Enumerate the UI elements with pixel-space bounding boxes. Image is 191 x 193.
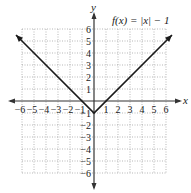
x-tick-label: 6 <box>164 104 169 115</box>
y-axis-label: y <box>90 1 96 13</box>
y-tick-label: −3 <box>80 132 91 143</box>
x-tick-label: −2 <box>63 104 74 115</box>
y-tick-label: 1 <box>86 84 91 95</box>
y-tick-label: −6 <box>80 168 91 179</box>
x-axis-label: x <box>182 94 188 106</box>
y-tick-label: 2 <box>86 72 91 83</box>
y-axis-arrow-down-icon <box>92 183 97 190</box>
y-tick-label: 4 <box>86 48 91 59</box>
x-tick-label: 2 <box>116 104 121 115</box>
y-tick-label: −4 <box>80 144 91 155</box>
x-tick-label: −5 <box>27 104 38 115</box>
function-label: f(x) = |x| − 1 <box>112 14 170 27</box>
y-tick-label: −2 <box>80 120 91 131</box>
y-axis-arrow-up-icon <box>92 12 97 19</box>
x-axis-arrow-left-icon <box>8 99 15 104</box>
x-tick-label: −6 <box>15 104 26 115</box>
x-tick-label: 1 <box>104 104 109 115</box>
y-tick-label: 6 <box>86 24 91 35</box>
x-axis-arrow-right-icon <box>175 99 182 104</box>
axes <box>8 12 182 190</box>
y-tick-label: 5 <box>86 36 91 47</box>
x-tick-label: −4 <box>39 104 50 115</box>
y-tick-label: −1 <box>80 108 91 119</box>
x-tick-label: 5 <box>152 104 157 115</box>
function-graph: −6−5−4−3−2−1123456654321−1−2−3−4−5−6 x y… <box>0 0 191 193</box>
x-tick-label: −3 <box>51 104 62 115</box>
y-tick-label: 3 <box>86 60 91 71</box>
x-tick-label: 4 <box>140 104 145 115</box>
x-tick-label: 3 <box>128 104 133 115</box>
y-tick-label: −5 <box>80 156 91 167</box>
